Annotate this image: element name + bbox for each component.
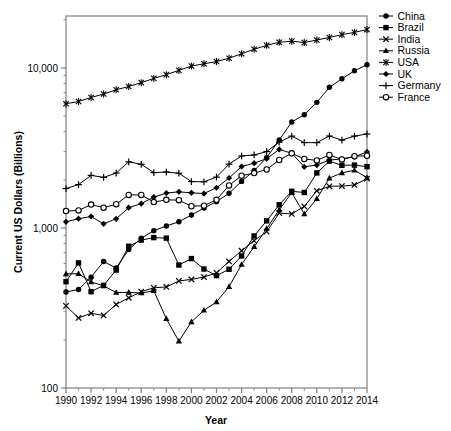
legend-marker-filled-circle (383, 13, 388, 18)
legend-marker-filled-square (383, 25, 388, 30)
x-tick-label: 2004 (230, 395, 253, 406)
x-tick-label: 2002 (205, 395, 228, 406)
x-tick-label: 1990 (55, 395, 78, 406)
chart-container: 1001,00010,000 1990199219941996199820002… (0, 0, 451, 431)
legend-label: Germany (398, 79, 442, 91)
y-tick-label: 1,000 (33, 223, 58, 234)
line-chart: 1001,00010,000 1990199219941996199820002… (0, 0, 451, 431)
legend-label: UK (398, 68, 413, 80)
x-tick-label: 2008 (281, 395, 304, 406)
legend-label: Brazil (398, 21, 424, 33)
x-axis-title: Year (205, 414, 227, 426)
x-tick-label: 2014 (356, 395, 379, 406)
x-tick-label: 1996 (130, 395, 153, 406)
x-tick-label: 1992 (80, 395, 103, 406)
x-tick-label: 2012 (331, 395, 354, 406)
y-tick-label: 100 (41, 383, 58, 394)
x-tick-label: 1994 (105, 395, 128, 406)
x-tick-label: 1998 (155, 395, 178, 406)
y-tick-label: 10,000 (27, 63, 58, 74)
x-tick-label: 2000 (180, 395, 203, 406)
legend-label: France (398, 91, 431, 103)
x-tick-label: 2006 (256, 395, 279, 406)
legend-label: Russia (398, 44, 430, 56)
legend-label: India (398, 33, 421, 45)
legend-label: China (398, 10, 426, 22)
legend-label: USA (398, 56, 420, 68)
y-axis-title: Current US Dollars (Billions) (12, 131, 24, 273)
x-tick-label: 2010 (306, 395, 329, 406)
legend-marker-open-circle (383, 95, 388, 100)
